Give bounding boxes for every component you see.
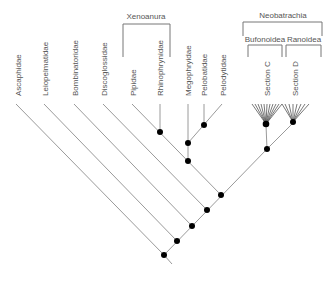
- taxon-label-discoglossidae: Discoglossidae: [100, 42, 109, 96]
- phylogenetic-tree: Xenoanura Neobatrachia Bufonoidea Ranoid…: [0, 0, 334, 281]
- node: [185, 140, 191, 146]
- group-label-neobatrachia: Neobatrachia: [259, 11, 307, 20]
- taxon-label-rhinophrynidae: Rhinophrynidae: [156, 39, 165, 96]
- taxon-label-leiopelmatidae: Leiopelmatidae: [41, 41, 50, 96]
- fan-section-d: [282, 104, 309, 122]
- taxon-label-pelobatidae: Pelobatidae: [200, 53, 209, 96]
- nodes: [157, 119, 296, 258]
- node: [174, 238, 180, 244]
- node-section-c: [263, 121, 270, 128]
- node: [218, 192, 224, 198]
- bracket-ranoidea: Ranoidea: [286, 35, 322, 57]
- node: [201, 122, 207, 128]
- group-label-bufonoidea: Bufonoidea: [245, 35, 286, 44]
- node-root: [161, 252, 167, 258]
- branches: [16, 104, 293, 264]
- node: [185, 158, 191, 164]
- bracket-bufonoidea: Bufonoidea: [245, 35, 286, 57]
- taxon-label-section-d: Section D: [291, 61, 300, 96]
- taxon-label-pipidae: Pipidae: [129, 69, 138, 96]
- taxon-label-bombinatoridae: Bombinatoridae: [71, 39, 80, 96]
- bracket-neobatrachia: Neobatrachia: [243, 11, 322, 36]
- group-label-xenoanura: Xenoanura: [126, 12, 166, 21]
- node: [157, 129, 163, 135]
- node-section-d: [290, 119, 296, 125]
- group-label-ranoidea: Ranoidea: [287, 35, 322, 44]
- taxon-label-section-c: Section C: [263, 61, 272, 96]
- taxon-label-ascaphidae: Ascaphidae: [14, 54, 23, 96]
- node: [204, 207, 210, 213]
- taxon-label-pelodytidae: Pelodytidae: [219, 54, 228, 96]
- node: [189, 223, 195, 229]
- taxon-label-megophryidae: Megophryidae: [184, 45, 193, 96]
- node-neobatrachia: [264, 146, 270, 152]
